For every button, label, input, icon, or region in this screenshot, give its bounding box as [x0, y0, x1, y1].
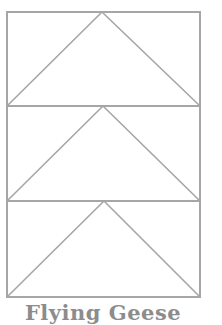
diagram-caption: Flying Geese: [0, 301, 206, 325]
goose-triangle-2: [7, 106, 200, 201]
goose-block-1: [7, 12, 200, 106]
goose-triangle-1: [7, 12, 200, 106]
goose-block-3: [7, 201, 200, 297]
goose-triangle-3: [7, 201, 200, 297]
goose-block-2: [7, 106, 200, 201]
